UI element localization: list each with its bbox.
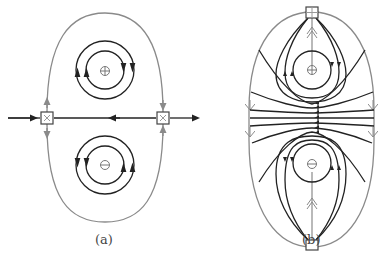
panel-b-label: (b) — [302, 232, 320, 247]
panel-a — [8, 13, 196, 222]
left-x-square — [41, 112, 53, 124]
right-x-square — [157, 112, 169, 124]
panel-b — [249, 7, 374, 250]
figure — [0, 0, 386, 253]
panel-a-label: (a) — [95, 232, 113, 247]
minus-vortex-a — [76, 136, 134, 194]
plus-vortex-a — [76, 41, 134, 99]
minus-vortex-b — [276, 136, 346, 240]
top-plus-square — [306, 7, 318, 18]
separatrix-loop — [47, 13, 163, 112]
